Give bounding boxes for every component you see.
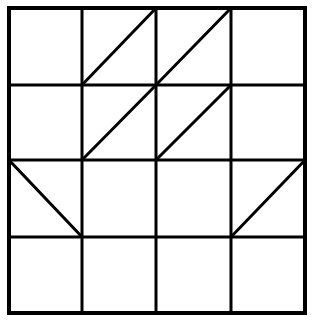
diagonal-line-forward [156,85,231,160]
diagonal-line-forward [156,8,231,85]
diagonal-line-forward [82,85,156,160]
diagonal-line-forward [231,160,305,237]
grid-diagram [0,0,315,321]
diagonal-line-back [9,160,82,237]
grid-svg [0,0,315,321]
diagonal-line-forward [82,8,156,85]
